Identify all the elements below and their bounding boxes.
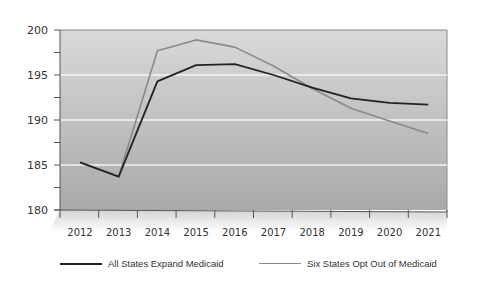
- x-tick-label: 2016: [222, 227, 247, 238]
- y-tick-label: 200: [27, 24, 48, 37]
- legend-swatch-gray: [259, 263, 301, 264]
- y-tick-label: 190: [27, 114, 48, 127]
- line-chart: 180185190195200 201220132014201520162017…: [0, 0, 483, 250]
- legend-item-six-states: Six States Opt Out of Medicaid: [259, 258, 437, 269]
- y-tick-label: 185: [27, 159, 48, 172]
- x-tick-label: 2021: [416, 227, 441, 238]
- x-tick-label: 2014: [145, 227, 170, 238]
- legend-label: All States Expand Medicaid: [108, 258, 224, 269]
- y-tick-label: 180: [27, 204, 48, 217]
- y-axis: 180185190195200: [27, 24, 60, 217]
- legend-label: Six States Opt Out of Medicaid: [307, 258, 437, 269]
- x-tick-label: 2018: [299, 227, 324, 238]
- x-tick-label: 2017: [261, 227, 286, 238]
- legend-item-all-states: All States Expand Medicaid: [60, 258, 224, 269]
- x-tick-label: 2012: [67, 227, 92, 238]
- x-tick-label: 2020: [377, 227, 402, 238]
- legend-swatch-black: [60, 263, 102, 265]
- y-tick-label: 195: [27, 69, 48, 82]
- x-tick-label: 2019: [338, 227, 363, 238]
- x-tick-label: 2013: [106, 227, 131, 238]
- x-tick-label: 2015: [183, 227, 208, 238]
